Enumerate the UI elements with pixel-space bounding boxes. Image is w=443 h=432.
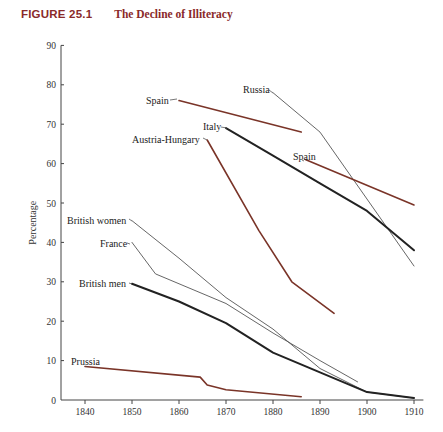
series-line-russia [273,93,414,266]
y-tick-label: 80 [47,80,57,90]
series-line-austria-hungary [207,140,334,313]
series-line-spain [179,101,301,133]
series-label-austria-hungary: Austria-Hungary [132,134,200,145]
line-chart: 0102030405060708090184018501860187018801… [0,0,443,432]
series-label-british-men: British men [79,278,126,289]
y-tick-label: 50 [47,199,57,209]
series-line-british-men [132,284,414,398]
series-line-british-women [132,221,414,398]
series-line-prussia [85,367,301,397]
y-tick-label: 20 [47,317,57,327]
y-axis-label: Percentage [27,200,38,244]
y-tick-label: 40 [47,238,57,248]
series-line-spain [306,160,414,205]
series-label-spain: Spain [146,95,169,106]
leader-line [127,243,130,244]
leader-line [170,99,177,100]
y-tick-label: 90 [47,41,57,51]
x-tick-label: 1890 [311,407,330,417]
x-tick-label: 1850 [123,407,142,417]
x-tick-label: 1860 [170,407,189,417]
series-line-italy [226,128,414,250]
leader-line [203,138,207,140]
leader-line [129,219,132,221]
x-tick-label: 1840 [76,407,95,417]
y-tick-label: 60 [47,159,57,169]
y-tick-label: 70 [47,120,57,130]
series-label-spain: Spain [293,151,316,162]
y-tick-label: 30 [47,277,57,287]
series-label-france: France [100,238,128,249]
x-tick-label: 1880 [264,407,283,417]
series-label-italy: Italy [203,121,221,132]
y-tick-label: 0 [51,396,56,406]
series-label-british-women: British women [67,215,126,226]
y-tick-label: 10 [47,356,57,366]
x-tick-label: 1900 [358,407,377,417]
x-tick-label: 1870 [217,407,236,417]
series-label-russia: Russia [243,84,270,95]
series-line-france [132,242,358,382]
x-tick-label: 1910 [405,407,424,417]
series-label-prussia: Prussia [71,356,100,367]
